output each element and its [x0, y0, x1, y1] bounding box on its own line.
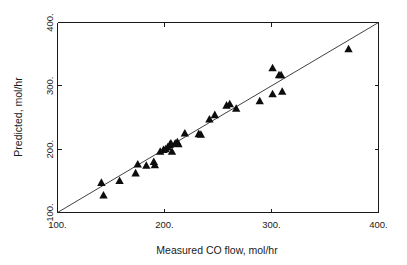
data-point-triangle: [181, 129, 189, 137]
y-tick-label: 300.: [44, 77, 55, 96]
data-point-triangle: [268, 90, 276, 98]
tick-labels: 100.200.300.400.100.200.300.400.: [44, 13, 388, 229]
data-markers: [97, 45, 353, 199]
data-point-triangle: [256, 97, 264, 105]
x-tick-label: 300.: [262, 219, 281, 230]
x-axis-label: Measured CO flow, mol/hr: [156, 244, 278, 256]
data-point-triangle: [142, 161, 150, 169]
scatter-plot: 100.200.300.400.100.200.300.400. Measure…: [0, 0, 407, 265]
data-point-triangle: [344, 45, 352, 53]
data-point-triangle: [211, 111, 219, 119]
chart-figure: 100.200.300.400.100.200.300.400. Measure…: [0, 0, 407, 265]
data-point-triangle: [99, 191, 107, 199]
data-point-triangle: [278, 87, 286, 95]
y-tick-label: 200.: [44, 140, 55, 159]
data-point-triangle: [97, 178, 105, 186]
x-tick-label: 400.: [369, 219, 388, 230]
y-axis-label: Predicted, mol/hr: [12, 77, 24, 157]
data-point-triangle: [131, 169, 139, 177]
x-tick-label: 200.: [155, 219, 174, 230]
data-point-triangle: [268, 64, 276, 72]
y-tick-label: 400.: [44, 13, 55, 32]
y-tick-label: 100.: [44, 203, 55, 222]
